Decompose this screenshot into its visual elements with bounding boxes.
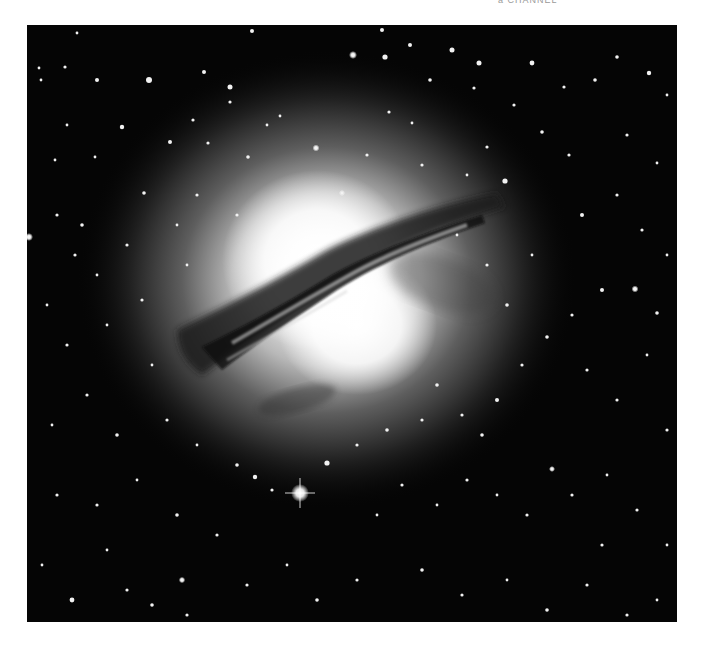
page: a CHANNEL <box>0 0 705 650</box>
caption-text: a CHANNEL <box>498 0 558 5</box>
galaxy-image <box>27 25 677 622</box>
galaxy-photo <box>27 25 677 622</box>
